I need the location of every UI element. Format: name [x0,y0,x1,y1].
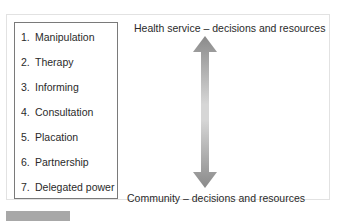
ladder-item: 7.Delegated power [21,181,114,193]
ladder-item: 1.Manipulation [21,31,95,43]
ladder-item: 3.Informing [21,81,79,93]
ladder-item-number: 5. [21,131,35,143]
ladder-item-label: Consultation [35,106,93,118]
ladder-item-label: Manipulation [35,31,95,43]
ladder-item-number: 2. [21,56,35,68]
ladder-item-number: 4. [21,106,35,118]
ladder-item-number: 6. [21,156,35,168]
ladder-item-label: Therapy [35,56,74,68]
ladder-item-number: 1. [21,31,35,43]
ladder-item: 5.Placation [21,131,78,143]
community-label: Community – decisions and resources [127,192,305,204]
footer-bar [6,211,70,221]
ladder-item-number: 3. [21,81,35,93]
double-arrow-icon [192,36,218,188]
ladder-item: 4.Consultation [21,106,93,118]
ladder-item-number: 7. [21,181,35,193]
ladder-item-label: Placation [35,131,78,143]
ladder-item-label: Delegated power [35,181,114,193]
ladder-item-label: Informing [35,81,79,93]
health-service-label: Health service – decisions and resources [134,22,325,34]
ladder-item: 6.Partnership [21,156,89,168]
ladder-item-label: Partnership [35,156,89,168]
participation-ladder-box: 1.Manipulation 2.Therapy 3.Informing 4.C… [14,22,118,199]
ladder-item: 2.Therapy [21,56,74,68]
